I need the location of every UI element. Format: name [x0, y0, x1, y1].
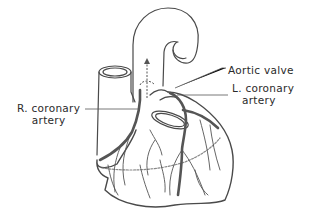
label-aortic-valve: Aortic valve [228, 64, 294, 76]
aorta-outline [133, 8, 198, 102]
heart-diagram: Aortic valve L. coronary artery R. coron… [0, 0, 311, 221]
left-coronary-artery [170, 93, 186, 195]
label-right-coronary-artery: R. coronary artery [17, 102, 80, 126]
label-left-coronary-artery: L. coronary artery [232, 82, 294, 106]
l-coronary-text-line2: artery [232, 94, 294, 106]
aortic-valve-text: Aortic valve [228, 64, 294, 76]
r-coronary-text-line1: R. coronary [17, 102, 80, 114]
r-coronary-text-line2: artery [17, 114, 80, 126]
l-coronary-text-line1: L. coronary [232, 82, 294, 94]
leader-aortic-valve [175, 68, 226, 88]
